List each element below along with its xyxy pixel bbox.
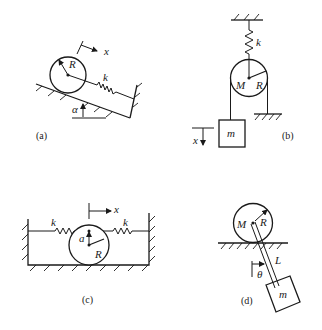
angle-label: α [72, 103, 78, 115]
x-label: x [113, 203, 119, 215]
radius-arrow [59, 60, 68, 75]
right-wall-hatch [149, 216, 155, 262]
figure-d: M R L θ m (d) [218, 204, 300, 313]
pendulum-rod-edge-1 [251, 224, 275, 288]
offset-label: a [79, 232, 85, 244]
bob-mass-label: m [279, 288, 287, 300]
hanging-mass-label: m [227, 127, 235, 139]
radius-label: R [255, 79, 263, 91]
x-arrow [81, 45, 97, 51]
caption-d: (d) [241, 295, 253, 307]
spring-label: k [103, 71, 109, 83]
disk-center [251, 221, 254, 224]
radius-line [249, 71, 266, 78]
spring [68, 75, 134, 99]
caption-c: (c) [82, 294, 93, 306]
figure-c: k k a R x (c) [22, 203, 155, 306]
left-wall-hatch [22, 224, 28, 260]
pulley-mass-label: M [235, 79, 246, 91]
radius-label: R [259, 216, 267, 228]
wall [130, 85, 137, 118]
spring-left-label: k [51, 216, 57, 228]
caption-a: (a) [36, 130, 47, 142]
ground-hatch [255, 114, 281, 120]
physics-diagram: α R k x (a) k [0, 0, 322, 330]
spring-label: k [256, 36, 262, 48]
disk-mass-label: M [236, 218, 247, 230]
radius-label: R [94, 248, 102, 260]
ceiling-hatch [234, 14, 259, 20]
caption-b: (b) [282, 130, 294, 142]
rod-length-label: L [274, 254, 281, 266]
radius-label: R [68, 58, 76, 70]
angle-label: θ [257, 268, 263, 280]
figure-a: α R k x (a) [36, 41, 142, 142]
spring-attachment-point [88, 230, 91, 233]
figure-b: k M R m x (b) [192, 14, 294, 147]
spring-right-label: k [123, 216, 129, 228]
spring [245, 20, 253, 60]
x-reference-tick [77, 41, 83, 54]
ground-hatch [221, 243, 282, 249]
floor-hatch [30, 265, 148, 271]
x-label: x [192, 134, 198, 146]
x-label: x [103, 45, 109, 57]
